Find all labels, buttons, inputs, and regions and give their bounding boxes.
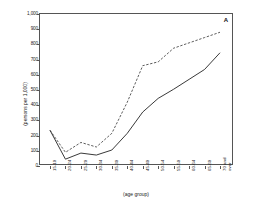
x-tick-mark xyxy=(143,166,144,169)
y-tick-mark xyxy=(37,75,40,76)
x-tick-label: 20-24 xyxy=(67,160,72,171)
y-axis-title: (persons per 1,000) xyxy=(22,82,28,126)
y-tick-mark xyxy=(37,44,40,45)
y-tick-mark xyxy=(37,136,40,137)
x-tick-label: 45-49 xyxy=(145,160,150,171)
x-tick-label: 15-19 xyxy=(52,160,57,171)
x-tick-label: 55-59 xyxy=(176,160,181,171)
figure-panel-a: 01002003004005006007008009001,000 15-192… xyxy=(0,0,255,208)
x-tick-label-line: 65-69 xyxy=(207,160,212,171)
x-tick-label: 40-44 xyxy=(129,160,134,171)
y-tick-mark xyxy=(37,29,40,30)
x-tick-label-line: 60-64 xyxy=(191,160,196,171)
x-tick-mark xyxy=(189,166,190,169)
x-tick-mark xyxy=(81,166,82,169)
x-tick-label: 50-54 xyxy=(160,160,165,171)
y-tick-mark xyxy=(37,151,40,152)
plot-area: 01002003004005006007008009001,000 15-192… xyxy=(39,13,233,165)
x-tick-label-line: 50-54 xyxy=(160,160,165,171)
y-tick-mark xyxy=(37,60,40,61)
y-tick-mark xyxy=(37,90,40,91)
chart-svg xyxy=(40,14,234,166)
x-tick-label: 60-64 xyxy=(191,160,196,171)
x-tick-mark xyxy=(220,166,221,169)
x-tick-mark xyxy=(205,166,206,169)
x-tick-mark xyxy=(50,166,51,169)
y-tick-mark xyxy=(37,105,40,106)
x-tick-label-line: 30-34 xyxy=(98,160,103,171)
x-tick-mark xyxy=(112,166,113,169)
x-tick-label-line: 35-39 xyxy=(114,160,119,171)
x-tick-mark xyxy=(174,166,175,169)
series-solid-line xyxy=(50,53,220,159)
y-tick-mark xyxy=(37,14,40,15)
x-tick-label: 25-29 xyxy=(83,160,88,171)
y-tick-mark xyxy=(37,120,40,121)
x-tick-label-line: over xyxy=(227,158,232,171)
x-tick-label-line: 15-19 xyxy=(52,160,57,171)
x-tick-label: 35-39 xyxy=(114,160,119,171)
y-axis-title-text: (persons per 1,000) xyxy=(22,82,28,126)
x-tick-label: 70 andover xyxy=(222,158,232,171)
y-tick-mark xyxy=(37,166,40,167)
series-dashed-line xyxy=(50,32,220,152)
x-tick-label-line: 45-49 xyxy=(145,160,150,171)
x-axis-title: (age group) xyxy=(39,191,233,197)
x-tick-label-line: 25-29 xyxy=(83,160,88,171)
panel-letter: A xyxy=(224,17,228,23)
x-tick-label-line: 20-24 xyxy=(67,160,72,171)
x-tick-label: 65-69 xyxy=(207,160,212,171)
x-tick-label: 30-34 xyxy=(98,160,103,171)
x-tick-label-line: 55-59 xyxy=(176,160,181,171)
x-tick-label-line: 40-44 xyxy=(129,160,134,171)
